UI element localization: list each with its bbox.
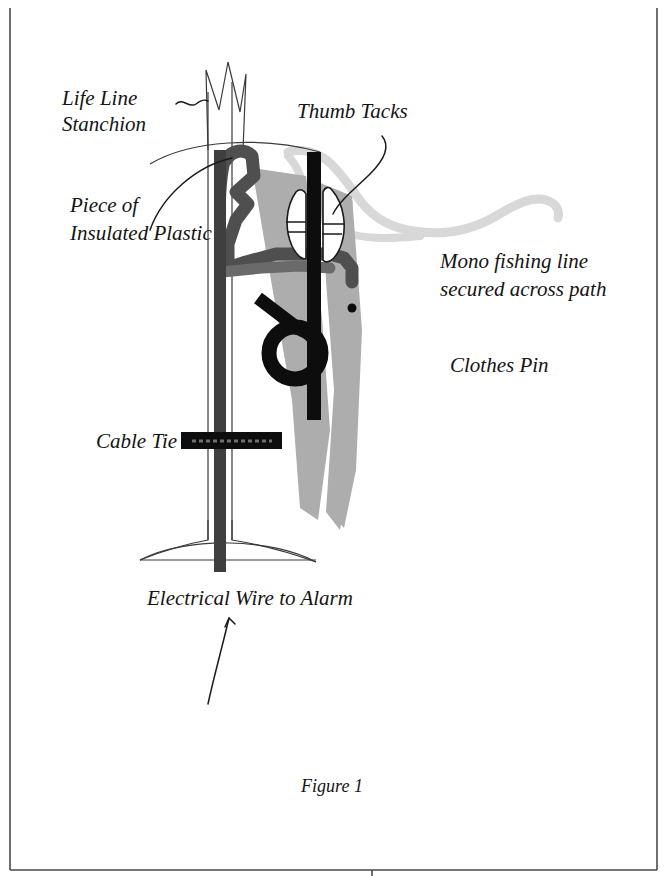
label-piece-of-insulated-plastic-line2: Insulated Plastic	[69, 221, 212, 245]
label-cable-tie: Cable Tie	[96, 429, 177, 453]
electrical-wire-through-base	[214, 500, 226, 572]
label-life-line-stanchion-line2: Stanchion	[62, 112, 146, 136]
label-piece-of-insulated-plastic-line1: Piece of	[69, 193, 141, 217]
label-clothes-pin: Clothes Pin	[450, 353, 549, 377]
figure-page: Life Line Stanchion Piece of Insulated P…	[0, 0, 665, 876]
label-mono-fishing-line-line1: Mono fishing line	[439, 249, 588, 273]
label-thumb-tacks: Thumb Tacks	[297, 99, 408, 123]
label-electrical-wire-to-alarm: Electrical Wire to Alarm	[146, 586, 353, 610]
label-life-line-stanchion-line1: Life Line	[61, 86, 137, 110]
label-mono-fishing-line-line2: secured across path	[440, 277, 606, 301]
cable-tie	[181, 432, 282, 449]
electrical-wire	[214, 150, 226, 572]
figure-caption: Figure 1	[300, 776, 363, 796]
figure-diagram: Life Line Stanchion Piece of Insulated P…	[0, 0, 665, 876]
contact-strip	[307, 152, 321, 420]
clothes-pin-pivot-dot	[348, 304, 357, 313]
